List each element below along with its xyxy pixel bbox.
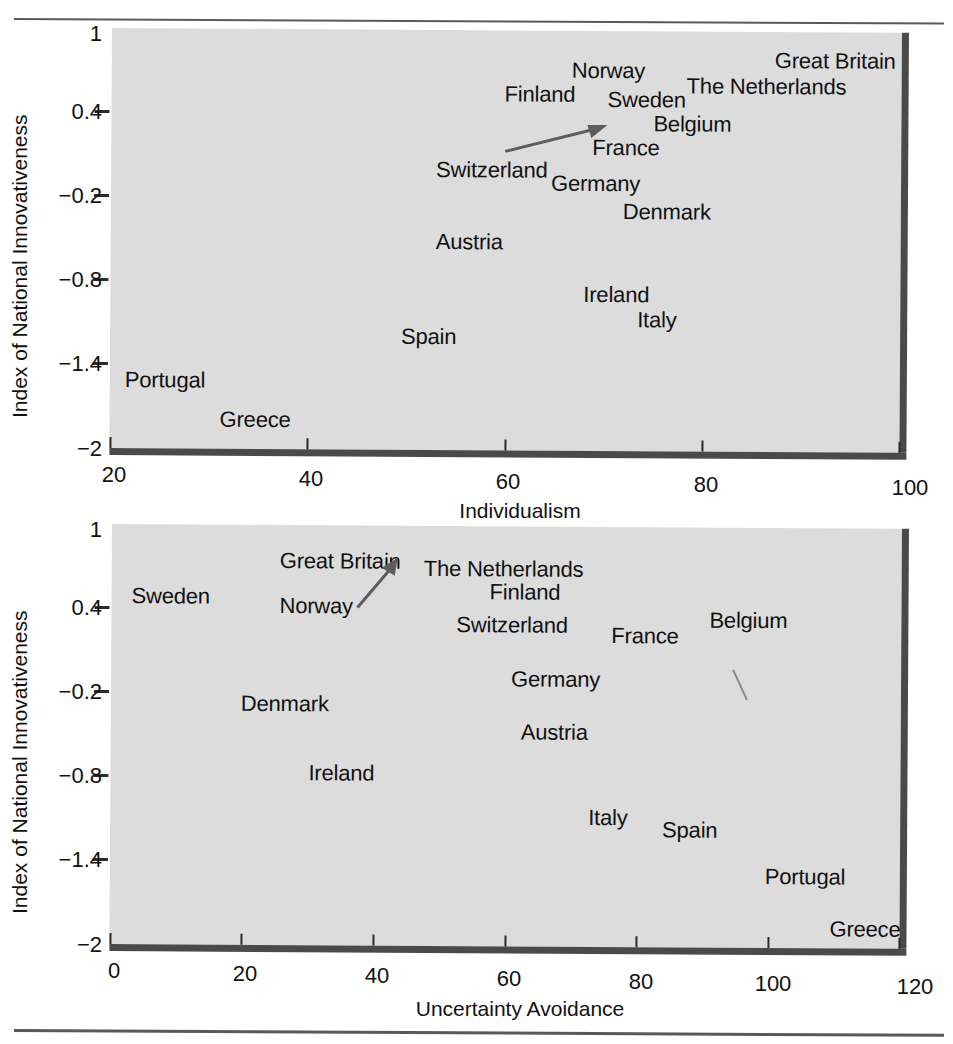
- point-label-denmark: Denmark: [623, 199, 711, 226]
- y-tick-label-top-1: 0.4: [36, 99, 102, 125]
- x-tick-top-4: [898, 442, 900, 453]
- x-tick-label-bottom-5: 100: [755, 971, 792, 997]
- point-label-norway-2: Norway: [279, 593, 353, 619]
- point-label-switzerland: Switzerland: [436, 157, 548, 184]
- x-tick-top-2: [504, 439, 506, 450]
- y-tick-label-top-0: 1: [60, 21, 102, 47]
- x-tick-label-top-2: 60: [496, 469, 520, 495]
- y-tick-label-bottom-2: −0.2: [26, 679, 102, 705]
- y-tick-label-bottom-3: −0.8: [26, 763, 102, 789]
- point-label-italy-2: Italy: [588, 805, 628, 831]
- x-tick-bottom-2: [372, 935, 374, 946]
- y-tick-label-top-2: −0.2: [26, 183, 102, 209]
- y-tick-label-bottom-1: 0.4: [36, 595, 102, 621]
- point-label-austria-2: Austria: [521, 720, 588, 746]
- x-axis-line-top: [109, 448, 906, 460]
- point-label-spain-2: Spain: [662, 817, 717, 843]
- x-tick-label-top-3: 80: [694, 472, 718, 498]
- point-label-portugal-2: Portugal: [765, 864, 846, 890]
- x-tick-label-bottom-6: 120: [897, 974, 934, 1000]
- point-label-belgium: Belgium: [653, 111, 731, 137]
- figure-page: Norway Great Britain The Netherlands Fin…: [0, 0, 953, 1044]
- point-label-belgium-2: Belgium: [709, 608, 787, 634]
- point-label-ireland: Ireland: [583, 282, 649, 308]
- scan-artifact-mark: [731, 668, 757, 704]
- y-tick-label-bottom-0: 1: [60, 517, 102, 543]
- x-tick-top-0: [109, 437, 111, 448]
- x-tick-label-top-4: 100: [892, 475, 929, 501]
- arrow-switzerland-to-france: [503, 118, 613, 159]
- point-label-great-britain: Great Britain: [775, 48, 896, 75]
- point-label-france-2: France: [611, 623, 678, 649]
- point-label-sweden-2: Sweden: [131, 583, 209, 609]
- point-label-ireland-2: Ireland: [308, 760, 374, 786]
- plot-area-uncertainty-avoidance: Great Britain The Netherlands Finland Sw…: [109, 524, 902, 949]
- x-tick-top-1: [306, 438, 308, 449]
- x-tick-label-bottom-1: 20: [233, 961, 257, 987]
- x-tick-top-3: [701, 441, 703, 452]
- point-label-spain: Spain: [401, 324, 456, 350]
- divider-line-bottom: [14, 1029, 944, 1037]
- y-tick-label-top-5: −2: [36, 436, 102, 462]
- y-axis-title-top: Index of National Innovativeness: [8, 114, 32, 418]
- x-tick-bottom-5: [767, 937, 769, 948]
- x-tick-bottom-4: [635, 936, 637, 947]
- x-axis-title-bottom: Uncertainty Avoidance: [416, 997, 625, 1021]
- point-label-greece: Greece: [220, 407, 291, 433]
- plot-right-edge-bottom: [899, 529, 909, 949]
- arrow-norway-to-great-britain: [349, 555, 409, 613]
- chart-uncertainty-avoidance: Great Britain The Netherlands Finland Sw…: [0, 518, 953, 1030]
- point-label-italy: Italy: [637, 307, 677, 333]
- point-label-germany-2: Germany: [511, 666, 600, 693]
- point-label-the-netherlands: The Netherlands: [687, 74, 847, 101]
- point-label-greece-2: Greece: [829, 916, 900, 942]
- x-tick-label-bottom-4: 80: [629, 969, 653, 995]
- point-label-switzerland-2: Switzerland: [456, 612, 568, 639]
- y-tick-label-top-4: −1.4: [26, 351, 102, 377]
- y-axis-title-bottom: Index of National Innovativeness: [8, 610, 32, 914]
- x-tick-label-bottom-0: 0: [108, 958, 120, 984]
- y-tick-label-bottom-4: −1.4: [26, 847, 102, 873]
- point-label-denmark-2: Denmark: [241, 691, 329, 718]
- point-label-norway: Norway: [572, 58, 646, 84]
- x-tick-bottom-3: [504, 935, 506, 946]
- point-label-finland-2: Finland: [490, 579, 561, 605]
- x-tick-label-bottom-2: 40: [365, 963, 389, 989]
- point-label-finland: Finland: [505, 81, 576, 107]
- x-tick-bottom-0: [109, 933, 111, 944]
- x-tick-label-top-1: 40: [299, 466, 323, 492]
- plot-area-individualism: Norway Great Britain The Netherlands Fin…: [109, 28, 902, 453]
- x-tick-label-bottom-3: 60: [497, 966, 521, 992]
- x-axis-line-bottom: [109, 944, 906, 956]
- y-tick-label-top-3: −0.8: [26, 267, 102, 293]
- x-tick-bottom-1: [240, 934, 242, 945]
- y-tick-label-bottom-5: −2: [36, 932, 102, 958]
- point-label-portugal: Portugal: [125, 367, 206, 393]
- chart-individualism: Norway Great Britain The Netherlands Fin…: [0, 22, 953, 502]
- point-label-germany: Germany: [551, 171, 640, 198]
- x-tick-label-top-0: 20: [102, 462, 126, 488]
- point-label-austria: Austria: [436, 229, 503, 255]
- plot-right-edge-top: [899, 33, 909, 453]
- point-label-sweden: Sweden: [607, 87, 685, 113]
